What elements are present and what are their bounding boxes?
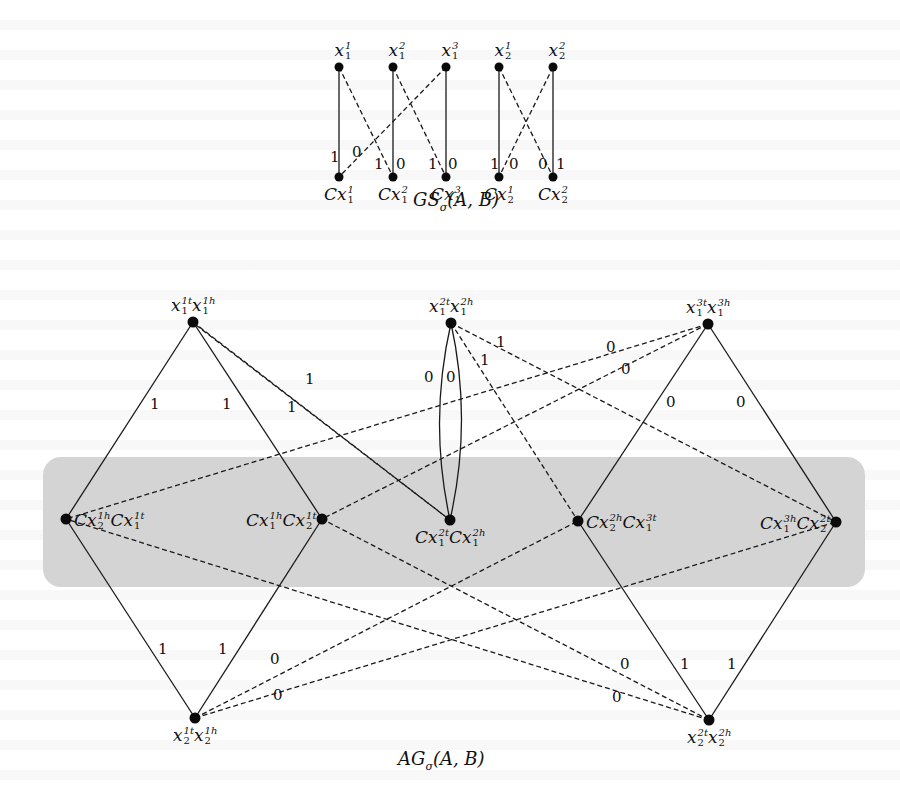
edge-weight-label: 1	[218, 642, 228, 657]
graph-node	[335, 63, 344, 72]
edge-weight-label: 1	[480, 353, 490, 368]
edge-weight-label: 0	[424, 370, 434, 385]
edge-weight-label: 0	[396, 157, 406, 172]
ag-caption-sub: σ	[425, 760, 433, 773]
gs-caption: GSσ(A, B)	[413, 189, 499, 214]
edge-weight-label: 1	[287, 400, 297, 415]
graph-node	[495, 173, 504, 182]
gs-caption-args: (A, B)	[447, 189, 499, 210]
edge-weight-label: 1	[428, 157, 438, 172]
gs-caption-name: GS	[413, 189, 440, 210]
node-label: x22	[549, 41, 566, 61]
ag-caption-args: (A, B)	[433, 748, 485, 769]
graph-node	[389, 173, 398, 182]
graph-node	[442, 173, 451, 182]
graph-node	[495, 63, 504, 72]
graph-node	[445, 515, 456, 526]
edge-weight-label: 0	[538, 157, 548, 172]
edge-weight-label: 0	[273, 688, 283, 703]
edge-weight-label: 0	[270, 652, 280, 667]
edge-weight-label: 0	[448, 157, 458, 172]
edge-weight-label: 0	[509, 157, 519, 172]
graph-node	[549, 63, 558, 72]
node-label: Cx22	[538, 185, 568, 205]
edge-weight-label: 1	[374, 157, 384, 172]
dashed-edge	[339, 67, 393, 177]
ag-caption: AGσ(A, B)	[398, 748, 485, 773]
graph-node	[442, 63, 451, 72]
graph-node	[704, 715, 715, 726]
edge-weight-label: 0	[606, 340, 616, 355]
node-label: x2t1x2h1	[429, 297, 473, 317]
graph-node	[549, 173, 558, 182]
graph-node	[335, 173, 344, 182]
graph-node	[446, 318, 457, 329]
node-label: Cx3h1Cx2t2	[760, 514, 830, 534]
edge-weight-label: 0	[446, 370, 456, 385]
node-label: Cx2t1Cx2h1	[415, 528, 485, 548]
graph-node	[703, 319, 714, 330]
node-label: x3t1x3h1	[686, 298, 730, 318]
edge-weight-label: 1	[496, 335, 506, 350]
node-label: x1t2x1h2	[173, 726, 217, 746]
node-label: x21	[389, 41, 406, 61]
edge-weight-label: 1	[330, 150, 340, 165]
node-label: Cx21	[378, 185, 408, 205]
edge-weight-label: 1	[305, 372, 315, 387]
node-label: x1t1x1h1	[171, 296, 215, 316]
graph-canvas	[0, 0, 900, 791]
edge-weight-label: 0	[621, 362, 631, 377]
node-label: Cx1h2Cx1t1	[74, 511, 144, 531]
edge-weight-label: 1	[727, 657, 737, 672]
node-label: Cx2h2Cx3t1	[586, 513, 656, 533]
node-label: x12	[495, 41, 512, 61]
ag-caption-name: AG	[398, 748, 425, 769]
node-label: Cx11	[324, 185, 354, 205]
node-label: x31	[442, 41, 459, 61]
edge-weight-label: 0	[666, 395, 676, 410]
node-label: Cx1h1Cx1t2	[246, 511, 316, 531]
edge-weight-label: 1	[150, 397, 160, 412]
graph-node	[831, 517, 842, 528]
node-label: x2t2x2h2	[687, 728, 731, 748]
graph-node	[573, 516, 584, 527]
edge-weight-label: 1	[158, 642, 168, 657]
edge-weight-label: 1	[490, 157, 500, 172]
graph-node	[190, 713, 201, 724]
graph-node	[61, 514, 72, 525]
graph-node	[317, 514, 328, 525]
graph-node	[389, 63, 398, 72]
node-label: x11	[335, 41, 352, 61]
edge-weight-label: 0	[612, 690, 622, 705]
edge-weight-label: 1	[556, 157, 566, 172]
edge-weight-label: 0	[620, 657, 630, 672]
edge-weight-label: 0	[736, 395, 746, 410]
edge-weight-label: 1	[222, 397, 232, 412]
edge-weight-label: 1	[680, 657, 690, 672]
graph-node	[188, 317, 199, 328]
edge-weight-label: 0	[352, 145, 362, 160]
